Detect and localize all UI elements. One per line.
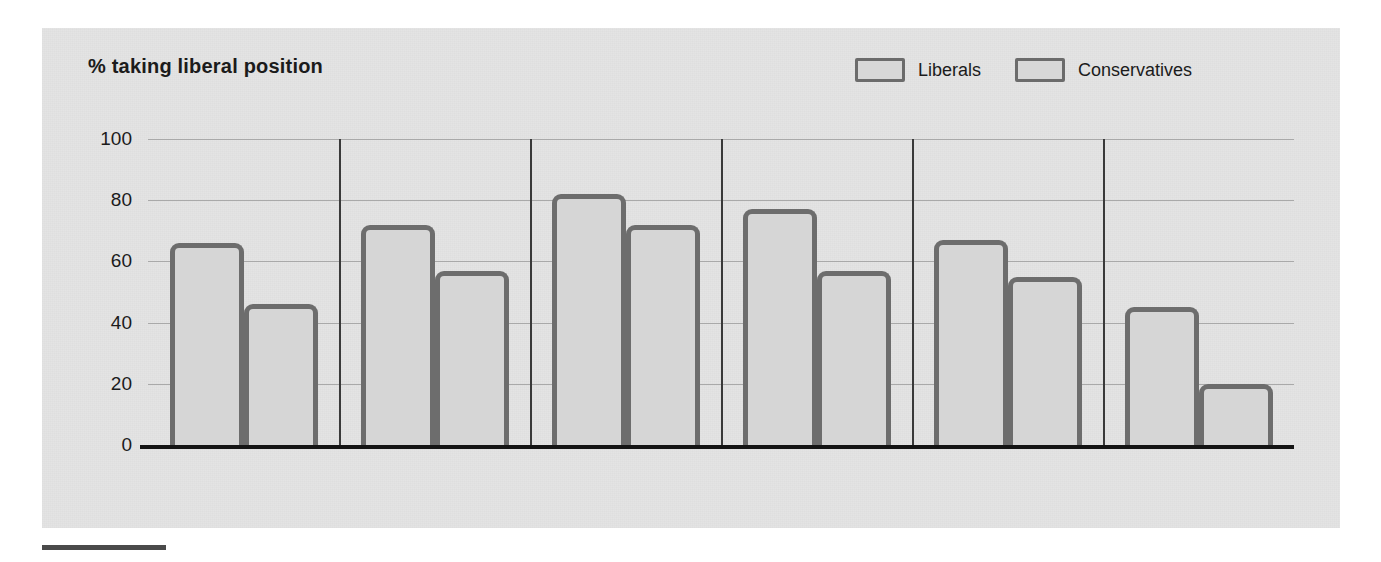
figure-root: % taking liberal position Liberals Conse… <box>0 0 1381 562</box>
y-tick-label-60: 60 <box>72 250 132 272</box>
y-tick-label-40: 40 <box>72 312 132 334</box>
bar-liberals-1 <box>361 225 435 445</box>
chart-legend: Liberals Conservatives <box>855 58 1192 82</box>
legend-swatch-liberals <box>855 58 905 82</box>
bar-liberals-0 <box>170 243 244 445</box>
chart-title: % taking liberal position <box>88 55 323 78</box>
bar-liberals-3 <box>743 209 817 445</box>
legend-item-liberals: Liberals <box>855 58 981 82</box>
y-tick-label-20: 20 <box>72 373 132 395</box>
y-tick-label-80: 80 <box>72 189 132 211</box>
bar-conservatives-0 <box>244 304 318 445</box>
legend-swatch-conservatives <box>1015 58 1065 82</box>
legend-label-conservatives: Conservatives <box>1078 60 1192 81</box>
x-axis-line <box>140 445 1294 449</box>
bar-conservatives-5 <box>1199 384 1273 445</box>
bar-conservatives-3 <box>817 271 891 445</box>
bar-liberals-4 <box>934 240 1008 445</box>
group-separator <box>1103 139 1105 445</box>
y-tick-label-0: 0 <box>72 434 132 456</box>
group-separator <box>912 139 914 445</box>
bar-conservatives-2 <box>626 225 700 445</box>
bar-conservatives-4 <box>1008 277 1082 445</box>
bar-liberals-5 <box>1125 307 1199 445</box>
plot-area: 020406080100Spend on poorSpend on health… <box>148 139 1294 445</box>
bar-liberals-2 <box>552 194 626 445</box>
group-separator <box>339 139 341 445</box>
legend-item-conservatives: Conservatives <box>1015 58 1192 82</box>
group-separator <box>530 139 532 445</box>
group-separator <box>721 139 723 445</box>
bar-conservatives-1 <box>435 271 509 445</box>
page-edge-mark <box>42 545 166 550</box>
y-tick-label-100: 100 <box>72 128 132 150</box>
legend-label-liberals: Liberals <box>918 60 981 81</box>
